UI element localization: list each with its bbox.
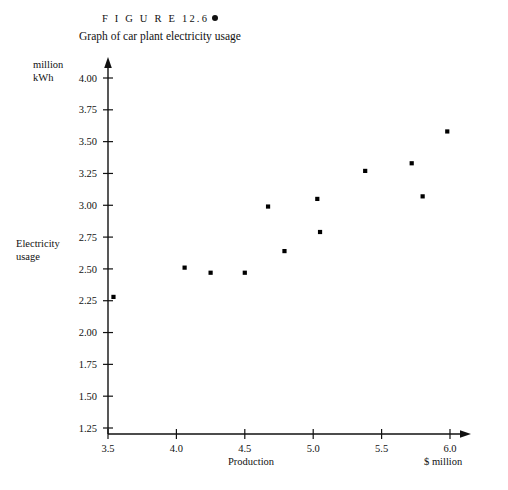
x-axis-ticks: 3.54.04.55.05.56.0 [101,429,456,454]
x-tick-label: 4.0 [170,443,183,454]
y-axis-unit-label: million kWh [33,58,63,84]
data-point [410,161,414,165]
y-axis-title-line-2: usage [16,250,60,263]
data-point [243,271,247,275]
y-tick-label: 2.50 [79,264,97,275]
data-point [421,194,425,198]
x-tick-label: 6.0 [443,443,456,454]
data-point [318,230,322,234]
x-axis-title: Production [228,455,274,468]
y-axis [104,57,112,434]
x-tick-label: 3.5 [101,443,114,454]
y-tick-label: 2.00 [79,327,97,338]
y-axis-unit-line-2: kWh [33,71,63,84]
y-tick-label: 1.75 [79,359,97,370]
y-tick-label: 1.25 [79,423,97,434]
x-axis [108,430,471,438]
data-point [282,249,286,253]
y-tick-label: 2.75 [79,232,97,243]
data-point [183,266,187,270]
data-point [266,204,270,208]
data-point-layer [111,129,449,299]
y-tick-label: 3.50 [79,136,97,147]
data-point [209,271,213,275]
y-tick-label: 1.50 [79,391,97,402]
data-point [445,129,449,133]
y-axis-unit-line-1: million [33,58,63,71]
plot-canvas: 1.251.501.752.002.252.502.753.003.253.50… [0,0,508,490]
x-axis-unit-label: $ million [424,455,462,468]
y-tick-label: 2.25 [79,295,97,306]
data-point [363,169,367,173]
data-point [315,197,319,201]
data-point [111,295,115,299]
y-tick-label: 3.00 [79,200,97,211]
y-axis-title-line-1: Electricity [16,237,60,250]
scatter-plot: 1.251.501.752.002.252.502.753.003.253.50… [0,0,508,490]
x-tick-label: 5.5 [375,443,388,454]
x-tick-label: 4.5 [238,443,251,454]
x-tick-label: 5.0 [307,443,320,454]
y-axis-title: Electricity usage [16,237,60,263]
y-tick-label: 3.75 [79,104,97,115]
y-tick-label: 4.00 [79,73,97,84]
y-tick-label: 3.25 [79,168,97,179]
